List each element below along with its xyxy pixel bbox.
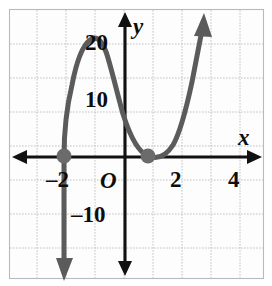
x-tick-label-2: 2 [170, 167, 182, 192]
y-tick-label-minus-10: –10 [70, 202, 106, 227]
y-tick-label-20: 20 [85, 30, 108, 55]
coordinate-plane: 20 10 –10 –2 2 4 O y x [0, 0, 272, 286]
point-root-minus-2 [57, 149, 72, 164]
graph-figure: 20 10 –10 –2 2 4 O y x [0, 0, 272, 286]
point-root-1 [141, 149, 156, 164]
x-tick-label-minus-2: –2 [45, 167, 69, 192]
y-tick-label-10: 10 [85, 87, 108, 112]
y-axis-name: y [130, 14, 144, 39]
x-axis-name: x [237, 125, 250, 150]
x-tick-label-4: 4 [228, 167, 240, 192]
origin-label: O [100, 168, 117, 193]
